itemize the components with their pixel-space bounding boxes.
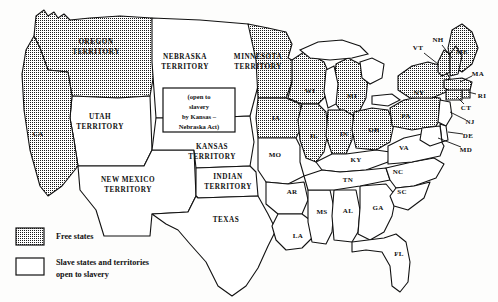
label-vermont: VT xyxy=(413,44,423,52)
label-oregon-territory: OREGON xyxy=(79,38,114,46)
legend-label-slave-states-line1: Slave states and territories xyxy=(56,258,149,267)
label-illinois: IL xyxy=(310,132,318,140)
label-iowa: IA xyxy=(272,114,280,122)
label-maine: ME xyxy=(456,48,468,56)
historical-map-svg: OREGONTERRITORYUTAHTERRITORYCANEW MEXICO… xyxy=(0,0,498,302)
legend-swatch-slave-states xyxy=(16,258,44,275)
label-minnesota-territory-line2: TERRITORY xyxy=(234,63,282,71)
label-utah-territory: UTAH xyxy=(89,113,111,121)
map-container: OREGONTERRITORYUTAHTERRITORYCANEW MEXICO… xyxy=(0,0,498,302)
label-michigan: MI xyxy=(347,92,357,100)
label-massachusetts: MA xyxy=(472,70,484,78)
region-utah-territory xyxy=(70,96,152,166)
label-missouri: MO xyxy=(269,151,282,159)
label-north-carolina: NC xyxy=(393,168,404,176)
label-arkansas: AR xyxy=(287,188,298,196)
label-mississippi: MS xyxy=(316,208,327,216)
label-new-mexico-territory: NEW MEXICO xyxy=(101,176,155,184)
label-california: CA xyxy=(33,130,44,138)
label-texas: TEXAS xyxy=(213,216,239,224)
label-alabama: AL xyxy=(343,207,353,215)
region-rhode-island xyxy=(462,90,470,98)
label-indiana: IN xyxy=(340,130,348,138)
region-florida xyxy=(352,234,410,292)
legend-label-slave-states-line2: open to slavery xyxy=(56,270,110,279)
label-nebraska-territory: NEBRASKA xyxy=(163,53,207,61)
label-louisiana: LA xyxy=(293,232,303,240)
legend-swatch-free-states xyxy=(16,228,44,245)
callout-line-4: Nebraska Act) xyxy=(179,123,219,131)
label-georgia: GA xyxy=(372,204,383,212)
label-new-york: NY xyxy=(414,89,425,97)
kansas-nebraska-act-callout: (open toslaveryby Kansas –Nebraska Act) xyxy=(163,88,235,132)
label-new-jersey: NJ xyxy=(465,118,474,126)
label-tennessee: TN xyxy=(343,176,353,184)
label-indian-territory-line2: TERRITORY xyxy=(204,183,252,191)
label-delaware: DE xyxy=(463,132,473,140)
region-alabama xyxy=(332,190,360,242)
label-kentucky: KY xyxy=(350,156,361,164)
label-wisconsin: WI xyxy=(305,87,315,95)
label-new-hampshire: NH xyxy=(432,36,443,44)
label-kansas-territory-line2: TERRITORY xyxy=(188,153,236,161)
region-new-jersey xyxy=(438,100,452,126)
label-pennsylvania: PA xyxy=(401,112,410,120)
label-minnesota-territory: MINNESOTA xyxy=(234,53,283,61)
lake-superior xyxy=(300,40,368,60)
callout-line-1: (open to xyxy=(188,93,212,101)
label-utah-territory-line2: TERRITORY xyxy=(76,123,124,131)
label-ohio: OH xyxy=(368,126,380,134)
label-florida: FL xyxy=(394,250,404,258)
label-nebraska-territory-line2: TERRITORY xyxy=(161,63,209,71)
leader-de xyxy=(448,132,463,134)
region-mississippi xyxy=(308,190,334,244)
label-rhode-island: RI xyxy=(478,92,486,100)
label-virginia: VA xyxy=(399,144,409,152)
legend-label-free-states: Free states xyxy=(56,232,93,241)
region-missouri xyxy=(258,138,304,184)
label-new-mexico-territory-line2: TERRITORY xyxy=(104,186,152,194)
label-kansas-territory: KANSAS xyxy=(196,143,228,151)
region-georgia xyxy=(358,184,396,240)
lake-michigan xyxy=(324,66,338,108)
region-vermont xyxy=(438,50,450,76)
label-south-carolina: SC xyxy=(397,188,407,196)
label-oregon-territory-line2: TERRITORY xyxy=(72,48,120,56)
label-indian-territory: INDIAN xyxy=(213,173,243,181)
callout-line-2: slavery xyxy=(189,103,210,110)
label-connecticut: CT xyxy=(461,104,471,112)
label-maryland: MD xyxy=(460,146,472,154)
region-connecticut xyxy=(446,90,462,100)
callout-line-3: by Kansas – xyxy=(182,113,217,120)
